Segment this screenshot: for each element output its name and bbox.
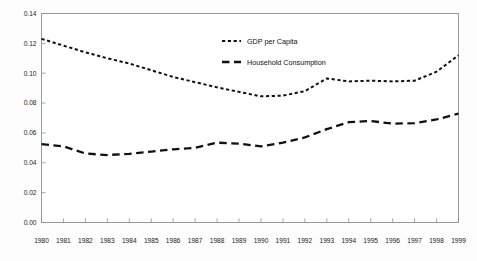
chart-canvas: 0.140.120.100.080.060.040.020.00 1980198… (0, 0, 477, 261)
x-tick-label: 1982 (78, 237, 93, 244)
y-tick-label: 0.06 (24, 129, 37, 136)
x-tick-label: 1993 (319, 237, 334, 244)
x-tick-label: 1998 (429, 237, 444, 244)
x-tick-label: 1981 (56, 237, 71, 244)
x-tick-label: 1988 (210, 237, 225, 244)
x-tick-label: 1987 (188, 237, 203, 244)
legend-label-1: GDP per Capita (247, 37, 298, 46)
x-tick-label: 1994 (341, 237, 356, 244)
legend-label-2: Household Consumption (247, 58, 326, 67)
x-axis-tick-labels: 1980198119821983198419851986198719881989… (34, 237, 466, 244)
x-tick-label: 1983 (100, 237, 115, 244)
x-tick-label: 1986 (166, 237, 181, 244)
x-tick-label: 1990 (254, 237, 269, 244)
y-tick-label: 0.14 (24, 10, 37, 17)
x-tick-label: 1989 (232, 237, 247, 244)
x-tick-label: 1980 (34, 237, 49, 244)
x-tick-label: 1999 (451, 237, 466, 244)
x-tick-label: 1991 (276, 237, 291, 244)
x-tick-label: 1984 (122, 237, 137, 244)
y-tick-label: 0.10 (24, 70, 37, 77)
y-tick-label: 0.08 (24, 99, 37, 106)
x-tick-label: 1985 (144, 237, 159, 244)
x-tick-label: 1995 (363, 237, 378, 244)
y-tick-label: 0.02 (24, 189, 37, 196)
y-tick-label: 0.12 (24, 40, 37, 47)
line-chart: 0.140.120.100.080.060.040.020.00 1980198… (0, 0, 477, 261)
x-tick-label: 1996 (385, 237, 400, 244)
y-tick-label: 0.00 (24, 219, 37, 226)
y-axis-tick-labels: 0.140.120.100.080.060.040.020.00 (24, 10, 37, 226)
x-tick-label: 1992 (298, 237, 313, 244)
y-tick-label: 0.04 (24, 159, 37, 166)
x-tick-label: 1997 (407, 237, 422, 244)
